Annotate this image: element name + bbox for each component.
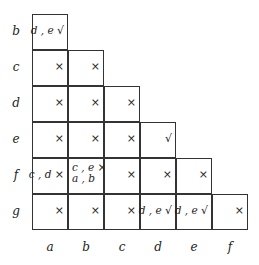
cell-content: c , e ×a , b — [72, 162, 107, 184]
cell-b-a: d , e √ — [32, 14, 68, 50]
cell-content: × — [91, 60, 100, 73]
cell-content: × — [91, 204, 100, 217]
row-label-d: d — [8, 96, 24, 110]
col-label-a: a — [32, 240, 68, 254]
cell-content: × — [127, 132, 136, 145]
cross-icon: × — [55, 132, 64, 145]
cell-e-c: × — [104, 122, 140, 158]
cell-content: d , e √ — [175, 204, 208, 217]
cell-f-a: c , d × — [32, 158, 68, 194]
row-label-f: f — [8, 168, 24, 182]
cross-icon: × — [91, 96, 100, 109]
col-label-c: c — [104, 240, 140, 254]
check-icon: √ — [57, 24, 64, 37]
cell-content: × — [127, 168, 136, 181]
cross-icon: × — [91, 132, 100, 145]
cell-content: × — [235, 204, 244, 217]
cross-icon: × — [55, 96, 64, 109]
cell-g-c: × — [104, 194, 140, 230]
cell-content: × — [55, 60, 64, 73]
cell-g-e: d , e √ — [176, 194, 212, 230]
cross-icon: × — [55, 60, 64, 73]
cell-g-a: × — [32, 194, 68, 230]
cell-content: × — [55, 96, 64, 109]
cell-f-d: × — [140, 158, 176, 194]
cross-icon: × — [127, 132, 136, 145]
cell-content: × — [163, 168, 172, 181]
cell-f-e: × — [176, 158, 212, 194]
cell-g-b: × — [68, 194, 104, 230]
cell-f-b: c , e ×a , b — [68, 158, 104, 194]
col-label-e: e — [176, 240, 212, 254]
check-icon: √ — [165, 204, 172, 217]
cross-icon: × — [199, 168, 208, 181]
cell-d-a: × — [32, 86, 68, 122]
cell-content: d , e √ — [31, 24, 64, 37]
cell-content: × — [127, 96, 136, 109]
cell-content: √ — [165, 132, 172, 145]
cell-content: × — [127, 204, 136, 217]
cell-d-c: × — [104, 86, 140, 122]
row-label-e: e — [8, 132, 24, 146]
cross-icon: × — [127, 168, 136, 181]
cell-content: × — [199, 168, 208, 181]
cell-content: × — [55, 204, 64, 217]
cross-icon: × — [163, 168, 172, 181]
col-label-b: b — [68, 240, 104, 254]
cell-content: × — [91, 96, 100, 109]
cross-icon: × — [55, 168, 64, 181]
cross-icon: × — [235, 204, 244, 217]
cell-g-f: × — [212, 194, 248, 230]
cell-c-a: × — [32, 50, 68, 86]
row-label-g: g — [8, 204, 24, 218]
check-icon: √ — [201, 204, 208, 217]
cell-c-b: × — [68, 50, 104, 86]
row-label-b: b — [8, 24, 24, 38]
cross-icon: × — [55, 204, 64, 217]
cross-icon: × — [91, 60, 100, 73]
cell-g-d: d , e √ — [140, 194, 176, 230]
row-label-c: c — [8, 60, 24, 74]
cell-content: d , e √ — [139, 204, 172, 217]
cross-icon: × — [91, 204, 100, 217]
cell-content: × — [55, 132, 64, 145]
cell-e-b: × — [68, 122, 104, 158]
cell-content: c , d × — [29, 168, 64, 181]
cell-content: × — [91, 132, 100, 145]
cell-d-b: × — [68, 86, 104, 122]
col-label-f: f — [212, 240, 248, 254]
cell-f-c: × — [104, 158, 140, 194]
check-icon: √ — [165, 132, 172, 145]
cross-icon: × — [127, 96, 136, 109]
cell-e-d: √ — [140, 122, 176, 158]
cell-e-a: × — [32, 122, 68, 158]
cross-icon: × — [127, 204, 136, 217]
col-label-d: d — [140, 240, 176, 254]
